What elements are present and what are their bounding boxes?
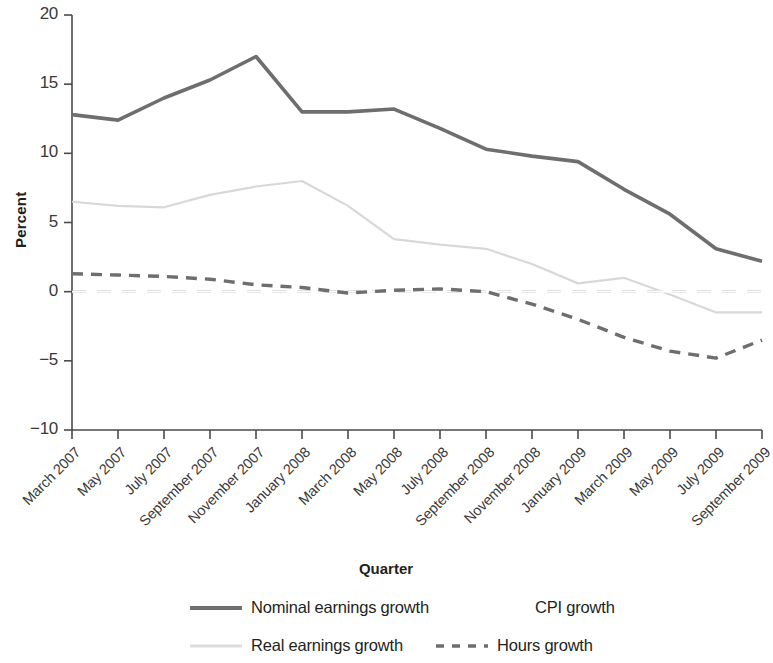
y-axis-tick-label: −5 [0,350,58,370]
legend-swatch-solid-dark-icon [190,600,242,616]
y-axis-tick-label: 5 [0,212,58,232]
legend-label-real-earnings-growth: Real earnings growth [251,636,403,655]
series-line-hours-growth [72,274,762,358]
legend-swatch-none-icon [474,600,526,616]
legend-label-nominal-earnings-growth: Nominal earnings growth [251,598,429,617]
chart-legend: Nominal earnings growth CPI growth Real … [0,592,765,663]
legend-item-hours-growth[interactable]: Hours growth [436,636,593,655]
y-axis-tick-label: 0 [0,281,58,301]
y-axis-tick-label: −10 [0,419,58,439]
legend-item-real-earnings-growth[interactable]: Real earnings growth [190,636,403,655]
legend-swatch-dashed-dark-icon [436,638,488,654]
legend-item-cpi-growth[interactable]: CPI growth [474,598,615,617]
y-axis-tick-label: 10 [0,142,58,162]
y-axis-tick-label: 15 [0,73,58,93]
legend-label-hours-growth: Hours growth [497,636,593,655]
legend-label-cpi-growth: CPI growth [535,598,615,617]
series-line-nominal-earnings-growth [72,57,762,262]
y-axis-tick-label: 20 [0,4,58,24]
series-line-real-earnings-growth [72,181,762,312]
legend-swatch-solid-light-icon [190,638,242,654]
legend-item-nominal-earnings-growth[interactable]: Nominal earnings growth [190,598,429,617]
